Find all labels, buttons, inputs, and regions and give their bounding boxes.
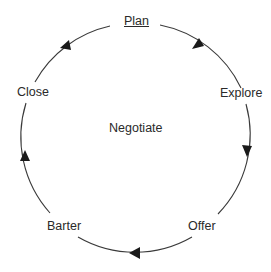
negotiation-cycle-diagram: Plan Explore Offer Barter Close Negotiat… <box>0 0 271 272</box>
stage-barter: Barter <box>47 219 81 233</box>
arrow-icon-explore <box>242 145 252 157</box>
arrow-icon-plan <box>192 38 204 49</box>
arc-plan-explore <box>160 25 241 88</box>
stage-plan: Plan <box>124 14 149 28</box>
arrow-icon-offer <box>129 247 140 259</box>
cycle-arcs <box>0 0 271 272</box>
arrow-icon-close <box>60 40 71 50</box>
arc-explore-offer <box>218 104 250 214</box>
stage-offer: Offer <box>188 219 216 233</box>
stage-explore: Explore <box>220 86 262 100</box>
stage-close: Close <box>17 85 49 99</box>
arc-close-plan <box>35 26 110 82</box>
center-label: Negotiate <box>109 121 163 135</box>
